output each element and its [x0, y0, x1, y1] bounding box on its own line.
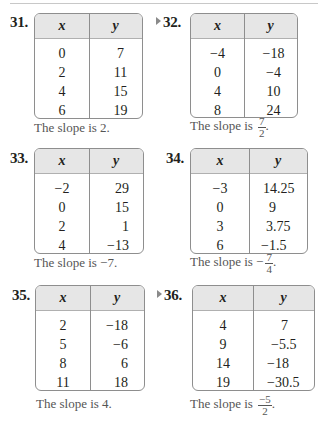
y-cell: −30.5	[253, 373, 314, 391]
header-x: x	[193, 286, 253, 310]
problem-number: 32.	[156, 14, 181, 31]
x-cell: 0	[35, 198, 89, 217]
y-cell: 3.75	[249, 217, 307, 236]
y-cell: 6	[90, 354, 144, 373]
y-cell: 14.25	[249, 179, 307, 198]
slope-period: .	[107, 120, 110, 135]
slope-sign: −	[256, 254, 263, 269]
x-column: −4 0 4 8	[191, 44, 244, 118]
slope-answer: The slope is −7.	[34, 255, 117, 271]
xy-table: x y 2 5 8 11 −18 −6 6 18	[35, 285, 145, 391]
y-cell: −18	[90, 316, 144, 335]
slope-period: .	[109, 396, 112, 411]
slope-label: The slope is	[190, 118, 256, 133]
x-cell: −4	[191, 44, 244, 63]
xy-table: x y −2 0 2 4 29 15 1 −13	[34, 148, 144, 254]
x-cell: 0	[191, 63, 244, 82]
y-cell: 15	[89, 82, 142, 101]
xy-table: x y 0 2 4 6 7 11 15 19	[34, 13, 143, 119]
x-column: −3 0 3 6	[191, 179, 249, 254]
slope-answer: The slope is 2.	[34, 120, 110, 136]
slope-label: The slope is	[34, 255, 100, 270]
column-divider	[244, 14, 245, 117]
problem-number-label: 32.	[163, 14, 181, 30]
x-cell: 4	[191, 82, 244, 101]
slope-period: .	[272, 396, 275, 411]
problem-number: 36.	[157, 287, 182, 304]
x-cell: 19	[193, 373, 253, 391]
problem-number: 33.	[10, 150, 28, 167]
x-cell: 4	[35, 82, 89, 101]
slope-answer: The slope is −52.	[190, 394, 275, 417]
y-cell: 1	[89, 217, 143, 236]
x-column: −2 0 2 4	[35, 179, 89, 254]
slope-answer: The slope is −74.	[190, 252, 276, 275]
y-column: −18 −4 10 24	[244, 44, 297, 118]
x-cell: 2	[35, 217, 89, 236]
xy-table: x y −3 0 3 6 14.25 9 3.75 −1.5	[190, 148, 308, 254]
header-y: y	[89, 14, 142, 38]
y-cell: 7	[89, 44, 142, 63]
header-x: x	[191, 149, 249, 173]
slope-label: The slope is	[190, 254, 256, 269]
y-cell: −13	[89, 236, 143, 254]
column-divider	[90, 286, 91, 390]
x-column: 2 5 8 11	[36, 316, 90, 391]
slope-fraction: 72	[258, 116, 266, 139]
slope-fraction: 74	[265, 252, 273, 275]
slope-answer: The slope is 4.	[36, 396, 112, 412]
x-cell: 5	[36, 335, 90, 354]
header-y: y	[253, 286, 314, 310]
x-cell: 2	[36, 316, 90, 335]
x-column: 4 9 14 19	[193, 316, 253, 391]
x-cell: 11	[36, 373, 90, 391]
x-cell: 0	[191, 198, 249, 217]
column-divider	[253, 286, 254, 390]
header-x: x	[35, 14, 89, 38]
y-cell: 7	[253, 316, 314, 335]
y-cell: 18	[90, 373, 144, 391]
fraction-denominator: 2	[261, 406, 269, 417]
y-cell: 19	[89, 101, 142, 119]
xy-table: x y −4 0 4 8 −18 −4 10 24	[190, 13, 298, 118]
fraction-denominator: 2	[258, 128, 266, 139]
problem-number: 34.	[166, 150, 184, 167]
problem-number: 35.	[12, 287, 30, 304]
x-cell: 2	[35, 63, 89, 82]
x-cell: 3	[191, 217, 249, 236]
y-cell: −4	[244, 63, 297, 82]
x-cell: 14	[193, 354, 253, 373]
y-column: 7 11 15 19	[89, 44, 142, 119]
header-y: y	[89, 149, 143, 173]
y-cell: 10	[244, 82, 297, 101]
x-cell: 8	[36, 354, 90, 373]
y-column: −18 −6 6 18	[90, 316, 144, 391]
y-cell: 29	[89, 179, 143, 198]
slope-fraction: −52	[258, 394, 272, 417]
triangle-marker-icon	[156, 17, 161, 25]
slope-label: The slope is	[34, 120, 100, 135]
slope-period: .	[273, 254, 276, 269]
slope-period: .	[114, 255, 117, 270]
slope-answer: The slope is 72.	[190, 116, 269, 139]
x-cell: 4	[35, 236, 89, 254]
column-divider	[89, 149, 90, 253]
header-x: x	[36, 286, 90, 310]
slope-value: −7	[100, 255, 114, 270]
x-cell: 0	[35, 44, 89, 63]
x-cell: 9	[193, 335, 253, 354]
header-x: x	[35, 149, 89, 173]
y-column: 14.25 9 3.75 −1.5	[249, 179, 307, 254]
x-cell: 6	[35, 101, 89, 119]
slope-label: The slope is	[36, 396, 102, 411]
x-cell: 4	[193, 316, 253, 335]
slope-period: .	[266, 118, 269, 133]
y-column: 29 15 1 −13	[89, 179, 143, 254]
fraction-denominator: 4	[265, 264, 273, 275]
column-divider	[89, 14, 90, 118]
xy-table: x y 4 9 14 19 7 −5.5 −18 −30.5	[192, 285, 315, 391]
top-rule	[10, 3, 318, 4]
header-y: y	[249, 149, 307, 173]
header-y: y	[90, 286, 144, 310]
y-cell: 9	[249, 198, 307, 217]
